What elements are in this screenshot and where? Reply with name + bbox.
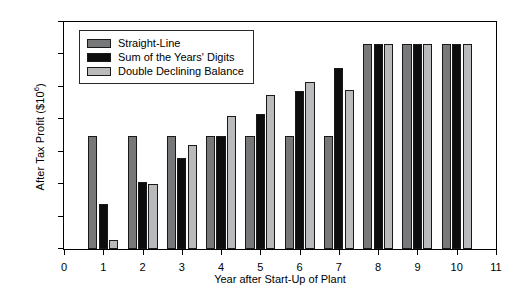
x-tick-label-2: 2: [128, 261, 158, 273]
bar-sl-year-10: [442, 44, 451, 249]
x-tick-0: [64, 249, 65, 255]
bar-ddb-year-4: [227, 116, 236, 249]
x-tick-2: [143, 249, 144, 255]
bar-syd-year-1: [99, 204, 108, 249]
bar-ddb-year-5: [266, 95, 275, 249]
chart-figure: After Tax Profit ($106) 05101520253035 0…: [0, 0, 521, 301]
bar-ddb-year-9: [423, 44, 432, 249]
x-tick-label-1: 1: [88, 261, 118, 273]
bar-group-year-9: [402, 22, 432, 249]
bar-ddb-year-7: [345, 90, 354, 249]
legend-item-straight-line: Straight-Line: [87, 36, 244, 50]
legend-label-double-declining-balance: Double Declining Balance: [118, 65, 244, 77]
x-tick-11: [496, 249, 497, 255]
bar-syd-year-6: [295, 91, 304, 249]
bar-group-year-6: [285, 22, 315, 249]
x-tick-label-5: 5: [245, 261, 275, 273]
bar-ddb-year-2: [148, 184, 157, 249]
x-tick-9: [417, 249, 418, 255]
chart-legend: Straight-Line Sum of the Years' Digits D…: [79, 30, 254, 84]
x-tick-3: [182, 249, 183, 255]
x-tick-label-11: 11: [481, 261, 511, 273]
legend-swatch-sum-of-years-digits: [87, 53, 111, 62]
bar-syd-year-3: [177, 158, 186, 249]
bar-sl-year-7: [324, 136, 333, 249]
bar-group-year-8: [363, 22, 393, 249]
bar-syd-year-4: [216, 136, 225, 249]
y-axis-title-close: ): [34, 83, 46, 87]
x-tick-label-10: 10: [442, 261, 472, 273]
bar-syd-year-10: [452, 44, 461, 249]
y-axis-title-exponent: 6: [32, 87, 41, 91]
legend-swatch-straight-line: [87, 39, 111, 48]
bar-sl-year-4: [206, 136, 215, 249]
x-axis-title: Year after Start-Up of Plant: [63, 273, 497, 285]
bar-syd-year-5: [256, 114, 265, 249]
legend-item-double-declining-balance: Double Declining Balance: [87, 64, 244, 78]
bar-sl-year-8: [363, 44, 372, 249]
x-tick-7: [339, 249, 340, 255]
bar-sl-year-9: [402, 44, 411, 249]
x-tick-label-4: 4: [206, 261, 236, 273]
bar-syd-year-2: [138, 182, 147, 249]
x-tick-label-9: 9: [402, 261, 432, 273]
plot-area: 05101520253035 01234567891011 Straight-L…: [63, 21, 497, 250]
x-tick-4: [221, 249, 222, 255]
bar-group-year-7: [324, 22, 354, 249]
bar-syd-year-8: [374, 44, 383, 249]
legend-item-sum-of-years-digits: Sum of the Years' Digits: [87, 50, 244, 64]
bar-syd-year-9: [413, 44, 422, 249]
bar-sl-year-5: [245, 136, 254, 249]
x-tick-1: [103, 249, 104, 255]
x-tick-label-6: 6: [285, 261, 315, 273]
legend-swatch-double-declining-balance: [87, 67, 111, 76]
legend-label-sum-of-years-digits: Sum of the Years' Digits: [118, 51, 234, 63]
y-axis-title: After Tax Profit ($106): [32, 37, 46, 237]
x-tick-8: [378, 249, 379, 255]
legend-label-straight-line: Straight-Line: [118, 37, 180, 49]
x-tick-label-8: 8: [363, 261, 393, 273]
x-tick-6: [300, 249, 301, 255]
y-axis-title-text: After Tax Profit ($10: [34, 91, 46, 190]
bar-ddb-year-3: [188, 145, 197, 249]
x-tick-10: [457, 249, 458, 255]
x-tick-5: [260, 249, 261, 255]
x-tick-label-7: 7: [324, 261, 354, 273]
bar-ddb-year-10: [463, 44, 472, 249]
bar-sl-year-3: [167, 136, 176, 249]
x-tick-label-0: 0: [49, 261, 79, 273]
bar-ddb-year-6: [305, 82, 314, 249]
bar-ddb-year-1: [109, 240, 118, 249]
x-tick-label-3: 3: [167, 261, 197, 273]
bar-ddb-year-8: [384, 44, 393, 249]
bar-group-year-10: [442, 22, 472, 249]
bar-sl-year-6: [285, 136, 294, 249]
bar-sl-year-2: [128, 136, 137, 249]
bar-sl-year-1: [88, 136, 97, 249]
bar-syd-year-7: [334, 68, 343, 249]
